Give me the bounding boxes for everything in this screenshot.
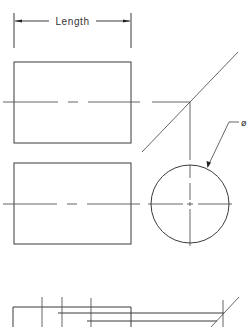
arrow-right-icon xyxy=(123,20,130,23)
technical-drawing: Length xyxy=(0,0,251,327)
bottom-partial-view xyxy=(13,297,239,327)
length-label: Length xyxy=(55,16,89,27)
front-view-rectangle xyxy=(14,163,131,244)
diameter-symbol: ø xyxy=(241,118,247,128)
top-view-rectangle xyxy=(14,62,131,143)
diameter-leader: ø xyxy=(207,118,248,169)
bottom-miter-line xyxy=(211,297,239,327)
length-dimension: Length xyxy=(14,13,131,48)
arrow-left-icon xyxy=(15,20,22,23)
front-view xyxy=(3,163,232,244)
bottom-rectangle xyxy=(13,307,131,327)
